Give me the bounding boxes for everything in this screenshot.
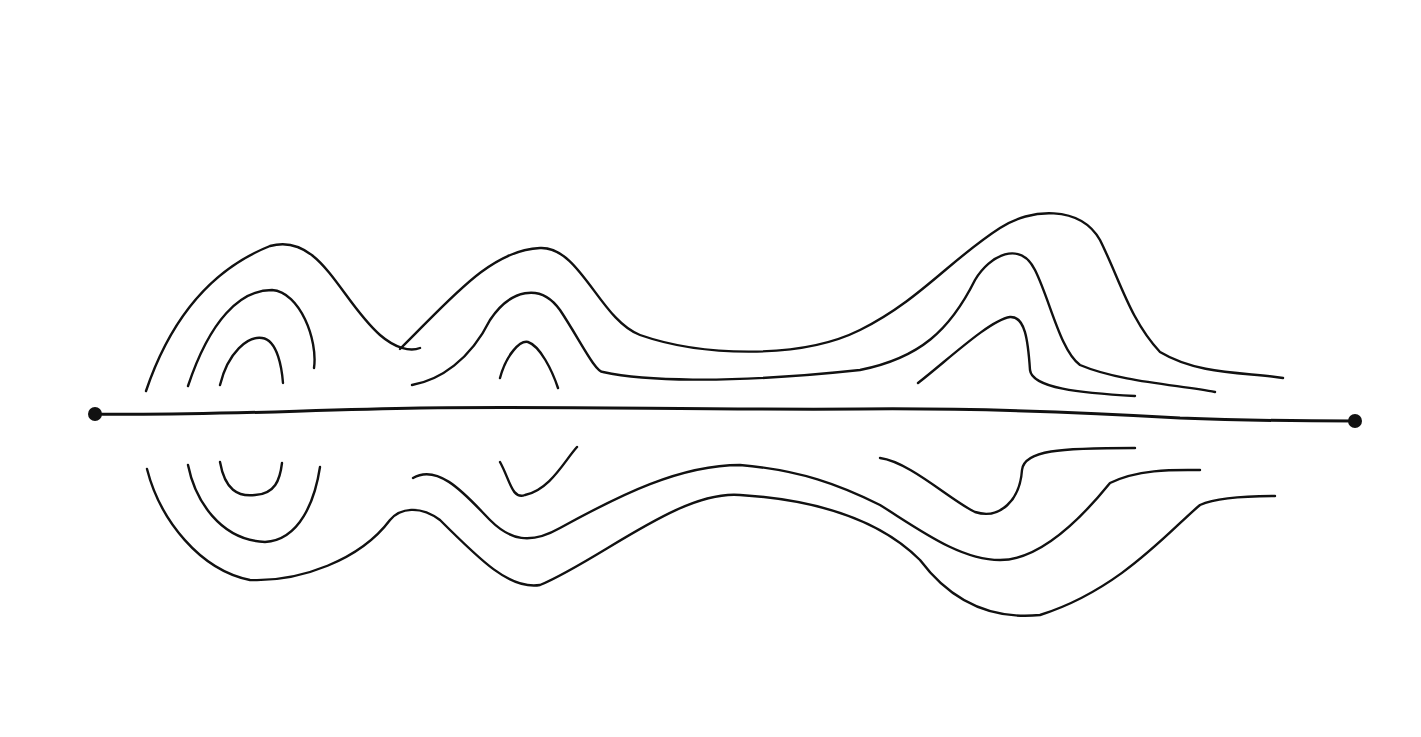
upper-contour-line (918, 317, 1135, 396)
contour-diagram (0, 0, 1421, 737)
central-axis-line (95, 407, 1355, 421)
upper-contour-line (412, 253, 1215, 392)
upper-contour-line (400, 213, 1283, 378)
lower-contour-line (147, 469, 1275, 616)
lower-contour-line (880, 448, 1135, 514)
lower-contour-line (220, 462, 282, 495)
upper-contour-line (146, 244, 420, 391)
left-endpoint-dot (88, 407, 102, 421)
upper-contour-line (500, 342, 558, 388)
upper-contour-lines (146, 213, 1283, 396)
lower-contour-line (500, 447, 577, 496)
lower-contour-line (413, 465, 1200, 560)
upper-contour-line (188, 290, 315, 386)
lower-contour-lines (147, 447, 1275, 616)
right-endpoint-dot (1348, 414, 1362, 428)
lower-contour-line (188, 465, 320, 542)
upper-contour-line (220, 338, 283, 385)
